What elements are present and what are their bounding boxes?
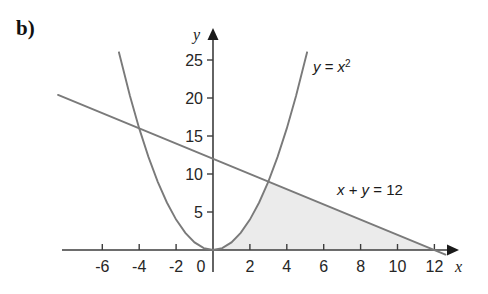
x-tick-label: 12 [426,258,444,275]
x-tick-label: 8 [356,258,365,275]
x-tick-label: 0 [197,258,206,275]
parabola-equation-label: y = x2 [312,58,351,75]
x-tick-label: -2 [169,258,183,275]
y-tick-label: 25 [185,52,203,69]
figure-container: b) -6-4-2024681012 510152025 y x y = x2 … [0,0,488,294]
x-tick-label: 6 [319,258,328,275]
x-tick-label: -6 [95,258,109,275]
y-axis-label: y [191,26,201,44]
coordinate-plot: -6-4-2024681012 510152025 y x y = x2 x +… [0,0,488,294]
x-tick-label: -4 [132,258,146,275]
y-tick-group: 510152025 [185,52,213,221]
x-axis-label: x [454,258,462,275]
y-tick-label: 15 [185,128,203,145]
x-axis-arrowhead [447,245,459,256]
y-tick-label: 5 [194,204,203,221]
y-tick-label: 20 [185,90,203,107]
y-axis [208,28,219,272]
y-axis-arrowhead [208,28,219,40]
x-tick-label: 10 [389,258,407,275]
line-equation-label: x + y = 12 [336,181,403,198]
x-tick-label: 4 [282,258,291,275]
y-tick-label: 10 [185,166,203,183]
x-tick-label: 2 [245,258,254,275]
